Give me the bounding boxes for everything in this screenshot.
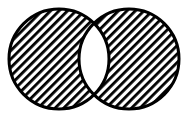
- venn-svg: [0, 0, 189, 120]
- venn-diagram: [0, 0, 189, 120]
